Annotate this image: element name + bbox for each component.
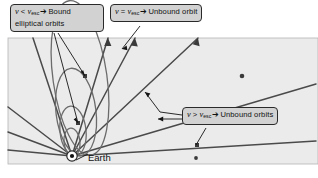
orbit-marker-4: [240, 74, 245, 79]
callout-escape-speed-orbit[interactable]: v=vesc➔Unbound orbit: [110, 4, 202, 22]
callout-equal-text: Unbound orbit: [148, 7, 197, 16]
figure-canvas: v<vesc➔Boundelliptical orbits v=vesc➔Unb…: [0, 0, 318, 178]
earth-label: Earth: [88, 152, 111, 163]
earth-body: [67, 151, 77, 161]
callout-bound-elliptical-orbits[interactable]: v<vesc➔Boundelliptical orbits: [10, 4, 104, 32]
orbit-marker-5: [194, 156, 198, 160]
callout-unbound-text: Unbound orbits: [220, 110, 273, 119]
callout-bound-text-line1: Bound: [48, 7, 70, 16]
callout-bound-text-line2: elliptical orbits: [15, 19, 64, 28]
callout-unbound-orbits[interactable]: v>vesc➔Unbound orbits: [182, 107, 278, 125]
earth-center-dot: [70, 154, 74, 158]
